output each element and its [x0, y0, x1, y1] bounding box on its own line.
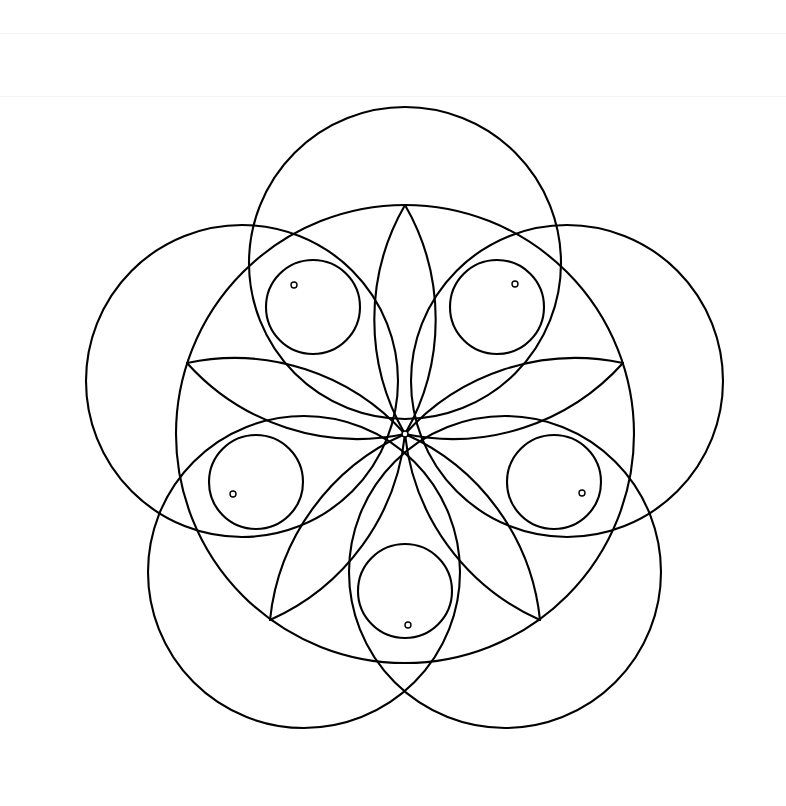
node-bottom [405, 622, 411, 628]
node-left [230, 491, 236, 497]
rosette-diagram [0, 0, 786, 806]
node-center [402, 431, 408, 437]
figure-root [0, 0, 786, 806]
node-upper-left [291, 282, 297, 288]
canvas-background [0, 0, 786, 806]
node-upper-right [512, 281, 518, 287]
node-right [579, 490, 585, 496]
